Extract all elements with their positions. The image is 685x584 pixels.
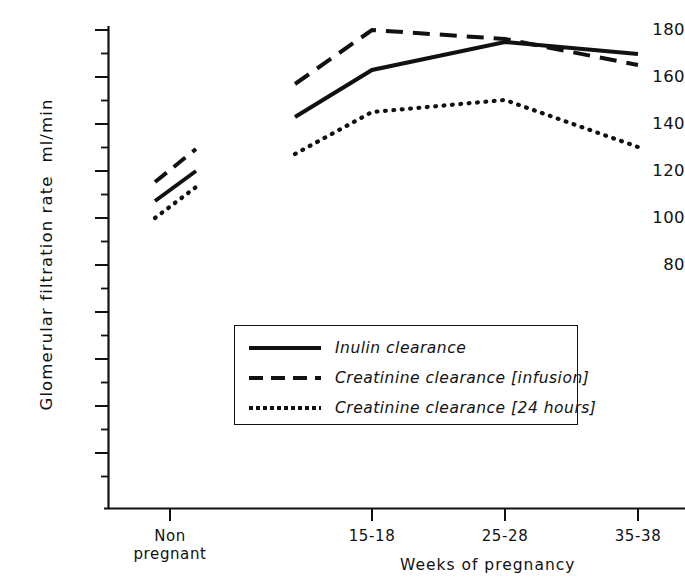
legend: Inulin clearance Creatinine clearance [i… bbox=[234, 325, 578, 425]
legend-line-solid-icon bbox=[249, 341, 321, 355]
axis-lines bbox=[104, 26, 685, 509]
x-tick-label-35-38: 35-38 bbox=[588, 528, 685, 546]
x-tick-label-nonpregnant-line1: Non bbox=[154, 527, 186, 545]
chart-figure: Glomerular filtration rateml/min 180 160… bbox=[0, 0, 685, 584]
x-tick-label-25-28: 25-28 bbox=[455, 528, 555, 546]
legend-label-creatinine-infusion: Creatinine clearance [infusion] bbox=[335, 369, 589, 387]
legend-item-creatinine-infusion: Creatinine clearance [infusion] bbox=[235, 364, 577, 391]
legend-line-dotted-icon bbox=[249, 401, 321, 415]
legend-item-creatinine-24h: Creatinine clearance [24 hours] bbox=[235, 394, 577, 421]
series-creatinine-infusion-line bbox=[295, 30, 638, 84]
legend-label-inulin: Inulin clearance bbox=[335, 339, 466, 357]
x-tick-label-nonpregnant: Nonpregnant bbox=[110, 528, 230, 563]
legend-label-creatinine-24h: Creatinine clearance [24 hours] bbox=[335, 399, 596, 417]
plot-area bbox=[0, 0, 685, 584]
x-axis-title: Weeks of pregnancy bbox=[400, 556, 575, 574]
legend-line-dashed-icon bbox=[249, 371, 321, 385]
series-creatinine-24h-nonpregnant bbox=[155, 187, 196, 218]
nonpregnant-segments bbox=[155, 149, 196, 218]
legend-item-inulin: Inulin clearance bbox=[235, 334, 577, 361]
x-tick-label-nonpregnant-line2: pregnant bbox=[134, 545, 207, 563]
series-creatinine-24h-line bbox=[295, 100, 638, 154]
x-axis-ticks bbox=[170, 508, 638, 521]
x-tick-label-15-18: 15-18 bbox=[322, 528, 422, 546]
